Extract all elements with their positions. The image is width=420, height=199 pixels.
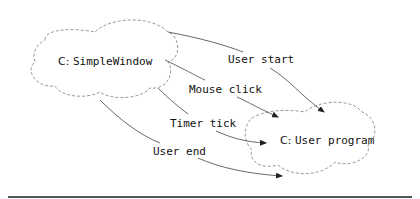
arrow-timer-tick — [158, 88, 188, 114]
arrow-user-start — [168, 32, 243, 52]
node-user-program-label: C: User program — [280, 134, 374, 147]
edge-label-mouse-click: Mouse click — [189, 83, 262, 96]
arrow-user-end — [100, 100, 160, 143]
arrow-mouse-click-2 — [237, 97, 278, 117]
node-simplewindow-label: C: SimpleWindow — [58, 55, 152, 68]
arrow-mouse-click — [165, 60, 205, 80]
diagram-graphics — [0, 0, 420, 199]
arrow-timer-tick-2 — [216, 131, 266, 143]
node-simplewindow-prefix: C: — [58, 55, 69, 68]
node-simplewindow-name: SimpleWindow — [73, 55, 152, 68]
edge-label-user-start: User start — [228, 53, 294, 66]
node-user-program-name: User program — [295, 134, 374, 147]
edge-label-timer-tick: Timer tick — [170, 117, 236, 130]
arrow-user-start-2 — [270, 68, 324, 112]
arrow-user-end-2 — [198, 158, 282, 176]
diagram-canvas: C: SimpleWindow C: User program User sta… — [0, 0, 420, 199]
edge-label-user-end: User end — [153, 145, 206, 158]
node-user-program-prefix: C: — [280, 134, 291, 147]
